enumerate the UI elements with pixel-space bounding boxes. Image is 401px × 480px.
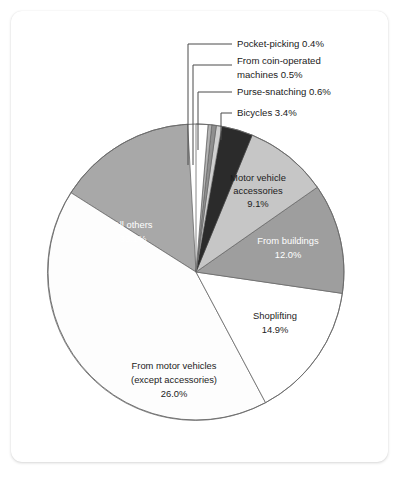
slice-label-from-buildings-value: 12.0% <box>275 249 302 260</box>
slice-label-motor-vehicle-accessories-line1: Motor vehicle <box>230 172 286 183</box>
callout-label-coin-operated-machines-line1: From coin-operated <box>237 55 321 66</box>
slice-label-shoplifting-value: 14.9% <box>262 324 289 335</box>
slice-label-all-others-value: 33.1% <box>120 233 147 244</box>
slice-label-from-motor-vehicles-line1: From motor vehicles <box>132 360 217 371</box>
pie-chart-figure: Pocket-picking 0.4% From coin-operated m… <box>0 0 401 480</box>
slice-label-motor-vehicle-accessories-line2: accessories <box>233 185 283 196</box>
pie-chart-svg: Pocket-picking 0.4% From coin-operated m… <box>0 0 401 480</box>
callout-label-purse-snatching: Purse-snatching 0.6% <box>237 86 331 97</box>
slice-label-all-others-line1: All others <box>113 219 152 230</box>
slice-label-from-buildings-line1: From buildings <box>257 235 319 246</box>
slice-label-motor-vehicle-accessories-value: 9.1% <box>247 198 268 209</box>
callout-labels: Pocket-picking 0.4% From coin-operated m… <box>237 38 331 118</box>
slice-label-shoplifting-line1: Shoplifting <box>253 310 297 321</box>
callout-label-pocket-picking: Pocket-picking 0.4% <box>237 38 324 49</box>
slice-label-from-motor-vehicles-line2: (except accessories) <box>131 374 217 385</box>
slice-label-from-motor-vehicles-value: 26.0% <box>161 388 188 399</box>
callout-label-coin-operated-machines-line2: machines 0.5% <box>237 69 303 80</box>
callout-label-bicycles: Bicycles 3.4% <box>237 107 297 118</box>
